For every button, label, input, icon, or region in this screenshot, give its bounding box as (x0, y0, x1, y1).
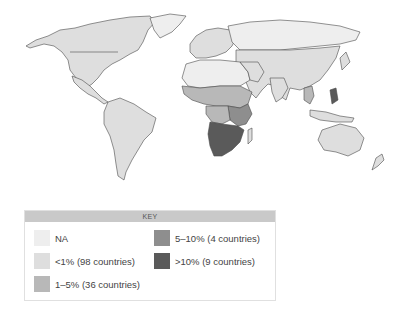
key-label-na: NA (55, 233, 68, 244)
swatch-1to5 (34, 276, 50, 292)
key-item-1to5: 1–5% (36 countries) (34, 276, 140, 292)
region-southeast-asia (304, 86, 314, 104)
region-greenland (150, 14, 186, 38)
region-south-america (104, 98, 156, 180)
region-central-africa (206, 106, 230, 124)
key-title: KEY (25, 211, 275, 222)
key-label-lt1: <1% (98 countries) (55, 256, 135, 267)
key-item-na: NA (34, 230, 68, 246)
key-item-lt1: <1% (98 countries) (34, 253, 135, 269)
region-russia (228, 20, 360, 50)
region-southern-africa (208, 122, 244, 156)
swatch-na (34, 230, 50, 246)
region-indonesia (310, 110, 354, 122)
key-label-gt10: >10% (9 countries) (175, 256, 255, 267)
key-item-5to10: 5–10% (4 countries) (154, 230, 260, 246)
key-label-1to5: 1–5% (36 countries) (55, 279, 140, 290)
region-new-zealand (372, 154, 384, 170)
region-north-africa (182, 60, 250, 88)
key-item-gt10: >10% (9 countries) (154, 253, 255, 269)
region-japan (340, 52, 350, 70)
world-map (0, 0, 398, 200)
map-key: KEY NA <1% (98 countries) 1–5% (36 count… (24, 210, 276, 301)
region-australia (318, 124, 364, 156)
swatch-5to10 (154, 230, 170, 246)
swatch-gt10 (154, 253, 170, 269)
region-philippines (330, 88, 338, 104)
region-madagascar (248, 128, 252, 144)
region-europe (190, 28, 236, 58)
swatch-lt1 (34, 253, 50, 269)
region-west-africa (182, 86, 252, 108)
key-label-5to10: 5–10% (4 countries) (175, 233, 260, 244)
